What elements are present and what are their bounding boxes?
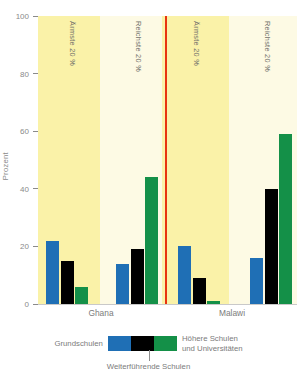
- plot-area: Ärmste 20 %Reichste 20 %Ärmste 20 %Reich…: [38, 16, 297, 304]
- y-tick-label: 100: [16, 12, 29, 21]
- bars-layer: [38, 16, 297, 304]
- chart-root: 020406080100 Prozent Ärmste 20 %Reichste…: [0, 0, 297, 384]
- country-label-malawi: Malawi: [219, 308, 245, 318]
- legend-swatch-higher: [154, 336, 177, 351]
- bar-malawi-richest-1: [265, 189, 278, 304]
- legend-swatch-secondary: [131, 336, 154, 351]
- bar-malawi-poorest-1: [193, 278, 206, 304]
- y-tick-label: 60: [20, 127, 29, 136]
- bar-malawi-poorest-0: [178, 246, 191, 304]
- y-tick-label: 0: [25, 300, 29, 309]
- legend-label-line2: und Universitäten: [182, 344, 243, 353]
- y-axis-label: Prozent: [1, 152, 10, 180]
- y-tick-label: 80: [20, 69, 29, 78]
- legend-label-hoehere-schulen: Höhere Schulen und Universitäten: [182, 334, 243, 353]
- legend-label-weiterfuehrende: Weiterführende Schulen: [0, 362, 297, 371]
- bar-malawi-richest-0: [250, 258, 263, 304]
- bar-ghana-richest-1: [131, 249, 144, 304]
- legend-swatch-primary: [108, 336, 131, 351]
- legend-label-line1: Höhere Schulen: [182, 334, 238, 343]
- legend: Grundschulen Höhere Schulen und Universi…: [0, 334, 297, 384]
- bar-ghana-poorest-1: [61, 261, 74, 304]
- bar-malawi-richest-2: [279, 134, 292, 304]
- x-axis-baseline: [38, 304, 297, 305]
- legend-label-grundschulen: Grundschulen: [54, 339, 103, 348]
- country-label-ghana: Ghana: [88, 308, 113, 318]
- y-tick-label: 40: [20, 184, 29, 193]
- bar-ghana-poorest-2: [75, 287, 88, 304]
- bar-ghana-richest-2: [145, 177, 158, 304]
- legend-leader-line: [149, 350, 150, 361]
- clipped-header-text: [0, 0, 297, 10]
- y-tick-label: 20: [20, 242, 29, 251]
- bar-ghana-poorest-0: [46, 241, 59, 304]
- legend-swatches: [108, 336, 177, 351]
- bar-ghana-richest-0: [116, 264, 129, 304]
